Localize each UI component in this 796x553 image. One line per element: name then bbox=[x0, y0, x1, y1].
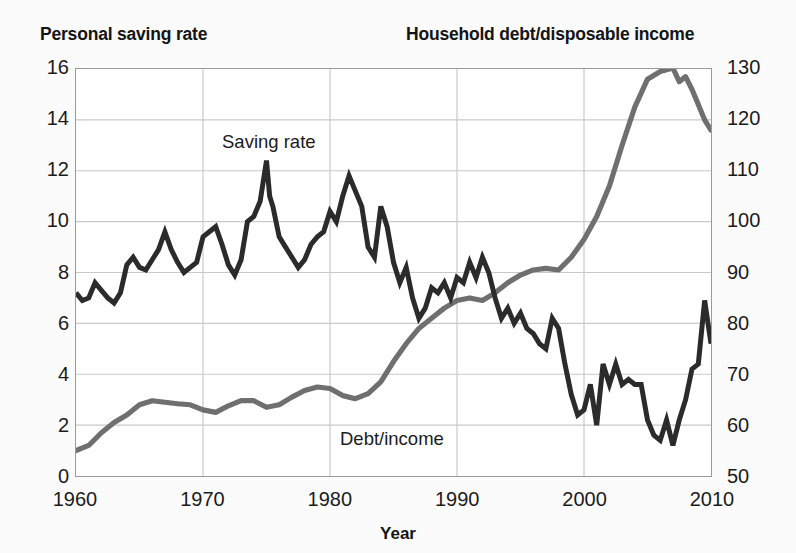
x-axis-tick-1960: 1960 bbox=[53, 489, 98, 509]
chart-container: Personal saving rate Household debt/disp… bbox=[0, 0, 796, 553]
right-axis-title: Household debt/disposable income bbox=[406, 24, 694, 45]
y-axis-right-tick-80: 80 bbox=[727, 313, 749, 333]
x-axis-tick-1980: 1980 bbox=[308, 489, 353, 509]
y-axis-left-tick-8: 8 bbox=[58, 262, 69, 282]
y-axis-left-tick-2: 2 bbox=[58, 415, 69, 435]
y-axis-right-tick-60: 60 bbox=[727, 415, 749, 435]
gridlines bbox=[76, 69, 711, 476]
x-axis-label: Year bbox=[0, 524, 796, 544]
x-axis-tick-2000: 2000 bbox=[562, 489, 607, 509]
y-axis-right-tick-100: 100 bbox=[727, 210, 760, 230]
left-axis-title: Personal saving rate bbox=[40, 24, 207, 45]
debt-income-series-label: Debt/income bbox=[340, 428, 444, 450]
y-axis-right-tick-70: 70 bbox=[727, 364, 749, 384]
plot-area bbox=[75, 68, 712, 477]
x-axis-tick-2010: 2010 bbox=[690, 489, 735, 509]
y-axis-right-tick-130: 130 bbox=[727, 57, 760, 77]
y-axis-left-tick-12: 12 bbox=[47, 159, 69, 179]
y-axis-right-tick-110: 110 bbox=[727, 159, 759, 179]
saving-rate-series-label: Saving rate bbox=[222, 131, 316, 153]
y-axis-left-tick-0: 0 bbox=[58, 466, 69, 486]
x-axis-tick-1990: 1990 bbox=[435, 489, 480, 509]
y-axis-right-tick-50: 50 bbox=[727, 466, 749, 486]
y-axis-left-tick-10: 10 bbox=[47, 210, 69, 230]
x-axis-tick-1970: 1970 bbox=[180, 489, 225, 509]
y-axis-right-tick-120: 120 bbox=[727, 108, 760, 128]
y-axis-left-tick-4: 4 bbox=[58, 364, 69, 384]
y-axis-left-tick-14: 14 bbox=[47, 108, 69, 128]
y-axis-right-tick-90: 90 bbox=[727, 262, 749, 282]
y-axis-left-tick-16: 16 bbox=[47, 57, 69, 77]
y-axis-left-tick-6: 6 bbox=[58, 313, 69, 333]
chart-svg bbox=[76, 69, 711, 476]
